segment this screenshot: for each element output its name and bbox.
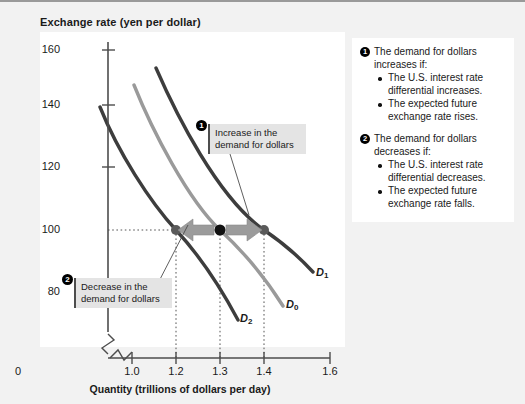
legend-badge-2: 2 [360, 134, 370, 144]
legend-bullet: The U.S. interest rate differential incr… [378, 72, 506, 97]
y-tick-label-120: 120 [24, 160, 60, 172]
y-tick-label-140: 140 [24, 98, 60, 110]
x-tick-label-1-3: 1.3 [200, 365, 240, 377]
curve-label-D1: D1 [316, 266, 328, 278]
legend-heading-increase-text: The demand for dollars increases if: [374, 46, 477, 70]
legend-heading-decrease: 2 The demand for dollars decreases if: [360, 133, 506, 158]
legend-bullets-increase: The U.S. interest rate differential incr… [360, 72, 506, 123]
legend-bullet: The U.S. interest rate differential decr… [378, 159, 506, 184]
legend-heading-decrease-text: The demand for dollars decreases if: [374, 133, 477, 157]
legend-item-increase: 1 The demand for dollars increases if: T… [360, 46, 506, 123]
y-tick-label-160: 160 [24, 43, 60, 55]
callout-decrease-line2: demand for dollars [81, 293, 166, 305]
callout-leader-lines [156, 154, 249, 287]
legend-item-decrease: 2 The demand for dollars decreases if: T… [360, 133, 506, 210]
y-axis-break [102, 334, 114, 354]
callout-increase-demand: Increase in the demand for dollars [208, 124, 306, 154]
curve-label-D1-letter: D [316, 266, 324, 278]
figure-container: Exchange rate (yen per dollar) Quantity … [0, 0, 525, 404]
callout-increase-line2: demand for dollars [215, 139, 300, 151]
legend-heading-increase: 1 The demand for dollars increases if: [360, 46, 506, 71]
x-tick-label-1-2: 1.2 [156, 365, 196, 377]
curve-label-D0-letter: D [286, 298, 294, 310]
y-tick-label-100: 100 [24, 223, 60, 235]
curve-label-D2-subscript: 2 [248, 317, 252, 326]
legend-box: 1 The demand for dollars increases if: T… [352, 38, 514, 222]
callout-decrease-demand: Decrease in the demand for dollars [74, 278, 172, 308]
curve-label-D0-subscript: 0 [294, 303, 298, 312]
callout-increase-line1: Increase in the [215, 127, 300, 139]
legend-badge-1: 1 [360, 47, 370, 57]
x-tick-label-0: 0 [0, 365, 38, 377]
callout-badge-decrease: 2 [62, 274, 73, 285]
x-tick-label-1-0: 1.0 [112, 365, 152, 377]
curve-label-D2-letter: D [240, 312, 248, 324]
x-tick-label-1-4: 1.4 [244, 365, 284, 377]
x-tick-label-1-6: 1.6 [310, 365, 350, 377]
legend-bullet: The expected future exchange rate rises. [378, 98, 506, 123]
marker-1-3 [215, 225, 226, 236]
curve-label-D1-subscript: 1 [324, 271, 328, 280]
legend-bullets-decrease: The U.S. interest rate differential decr… [360, 159, 506, 210]
callout-badge-increase: 1 [196, 120, 207, 131]
callout-decrease-line1: Decrease in the [81, 281, 166, 293]
curve-label-D0: D0 [286, 298, 298, 310]
legend-bullet: The expected future exchange rate falls. [378, 185, 506, 210]
y-tick-label-80: 80 [24, 285, 60, 297]
curve-label-D2: D2 [240, 312, 252, 324]
